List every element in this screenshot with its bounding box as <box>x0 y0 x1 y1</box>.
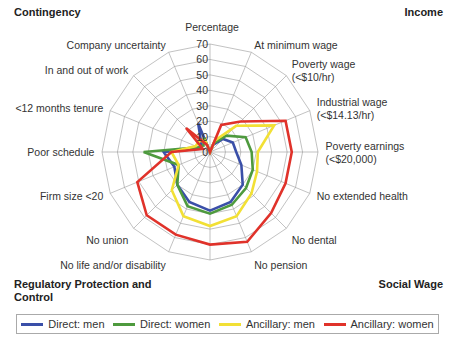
radar-chart: 010203040506070PercentageAt minimum wage… <box>0 0 457 310</box>
category-label: Poverty wage(<$10/hr) <box>292 58 356 83</box>
legend-item: Ancillary: women <box>324 318 434 330</box>
category-label: In and out of work <box>45 64 129 76</box>
legend-item: Ancillary: men <box>219 318 315 330</box>
category-label: Industrial wage(<$14.13/hr) <box>317 96 388 121</box>
legend-label: Direct: men <box>48 318 104 330</box>
legend-item: Direct: women <box>113 318 210 330</box>
r-tick-label: 0 <box>202 146 208 158</box>
grid-spoke <box>210 111 310 152</box>
grid-spoke <box>210 152 310 193</box>
legend-label: Ancillary: men <box>246 318 315 330</box>
grid-spoke <box>210 152 286 228</box>
category-label: Company uncertainty <box>67 39 167 51</box>
r-tick-label: 70 <box>196 38 208 50</box>
legend-swatch <box>324 323 346 326</box>
category-label: No extended health <box>317 190 408 202</box>
legend-swatch <box>219 323 241 326</box>
series-line-ancillary-women <box>137 121 291 245</box>
category-label: No union <box>86 234 128 246</box>
category-label: No dental <box>292 234 337 246</box>
category-label: At minimum wage <box>254 39 338 51</box>
r-tick-label: 60 <box>196 53 208 65</box>
category-label: No pension <box>254 259 307 271</box>
category-label: Poverty earnings(<$20,000) <box>326 140 405 165</box>
category-label: Poor schedule <box>27 146 94 158</box>
legend-swatch <box>21 323 43 326</box>
category-label: Firm size <20 <box>40 190 103 202</box>
axis-title: Percentage <box>185 21 239 33</box>
legend-label: Direct: women <box>140 318 210 330</box>
category-label: No life and/or disability <box>60 259 166 271</box>
r-tick-label: 40 <box>196 84 208 96</box>
r-tick-label: 30 <box>196 100 208 112</box>
legend-swatch <box>113 323 135 326</box>
legend-label: Ancillary: women <box>351 318 434 330</box>
r-tick-label: 20 <box>196 115 208 127</box>
category-label: <12 months tenure <box>15 102 103 114</box>
legend-item: Direct: men <box>21 318 104 330</box>
chart-legend: Direct: menDirect: womenAncillary: menAn… <box>16 314 439 334</box>
r-tick-label: 50 <box>196 69 208 81</box>
r-tick-label: 10 <box>196 131 208 143</box>
